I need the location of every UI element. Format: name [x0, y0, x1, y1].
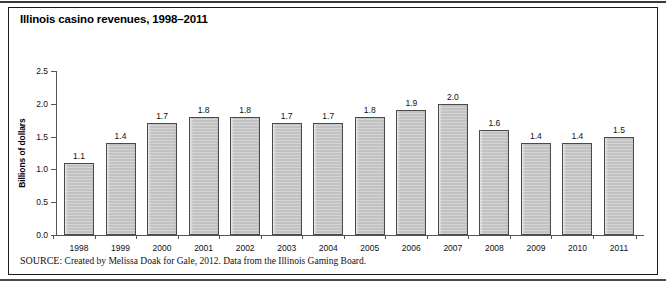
x-tick-label: 2004 [307, 243, 349, 253]
figure-container: Illinois casino revenues, 1998–2011 Bill… [0, 0, 666, 284]
bar-value-label: 1.7 [307, 111, 349, 121]
bar-slot: 1.4 [556, 71, 598, 235]
bar-value-label: 1.4 [515, 131, 557, 141]
y-tick-label: 2.0 [36, 99, 48, 109]
bar-value-label: 1.5 [598, 125, 640, 135]
x-tick-label: 2000 [141, 243, 183, 253]
bar[interactable] [189, 117, 219, 235]
x-tick-mark [636, 235, 637, 239]
bar[interactable] [230, 117, 260, 235]
bar-value-label: 1.6 [473, 118, 515, 128]
x-tick-label: 2001 [183, 243, 225, 253]
bar[interactable] [313, 123, 343, 235]
x-tick-mark [344, 235, 345, 239]
bar-value-label: 1.1 [58, 151, 100, 161]
source-text: Created by Melissa Doak for Gale, 2012. … [65, 256, 367, 266]
x-tick-mark [136, 235, 137, 239]
bar[interactable] [438, 104, 468, 235]
x-tick-mark [510, 235, 511, 239]
bar[interactable] [396, 110, 426, 235]
bar-value-label: 1.9 [390, 98, 432, 108]
bar-value-label: 2.0 [432, 92, 474, 102]
x-tick-label: 2003 [266, 243, 308, 253]
x-tick-label: 1999 [100, 243, 142, 253]
y-tick-label: 0.5 [36, 197, 48, 207]
x-tick-mark [593, 235, 594, 239]
bar-value-label: 1.8 [224, 105, 266, 115]
bar[interactable] [355, 117, 385, 235]
bar-slot: 1.8 [349, 71, 391, 235]
x-tick-label: 2008 [473, 243, 515, 253]
bar-slot: 1.1 [58, 71, 100, 235]
bar[interactable] [604, 137, 634, 235]
bar-value-label: 1.8 [183, 105, 225, 115]
bar-slot: 2.0 [432, 71, 474, 235]
bar-slot: 1.4 [515, 71, 557, 235]
bar-slot: 1.6 [473, 71, 515, 235]
chart-title: Illinois casino revenues, 1998–2011 [20, 13, 208, 25]
x-tick-mark [302, 235, 303, 239]
bar-value-label: 1.4 [556, 131, 598, 141]
x-tick-label: 2002 [224, 243, 266, 253]
bar-slot: 1.8 [224, 71, 266, 235]
bar-slot: 1.7 [266, 71, 308, 235]
y-axis-line [56, 71, 57, 235]
bar-slot: 1.7 [307, 71, 349, 235]
bar-slot: 1.4 [100, 71, 142, 235]
page-rule-top [0, 1, 666, 3]
bar-value-label: 1.7 [141, 111, 183, 121]
x-tick-mark [551, 235, 552, 239]
x-axis-line [56, 235, 644, 236]
y-tick-mark [51, 137, 56, 138]
y-tick-mark [51, 104, 56, 105]
x-tick-mark [53, 235, 54, 239]
x-tick-label: 2006 [390, 243, 432, 253]
x-tick-mark [468, 235, 469, 239]
bar-slot: 1.7 [141, 71, 183, 235]
x-tick-label: 2010 [556, 243, 598, 253]
bar[interactable] [106, 143, 136, 235]
x-tick-label: 2009 [515, 243, 557, 253]
y-tick-mark [51, 71, 56, 72]
bar-value-label: 1.7 [266, 111, 308, 121]
bar[interactable] [521, 143, 551, 235]
y-tick-label: 1.5 [36, 132, 48, 142]
y-axis-label: Billions of dollars [16, 71, 28, 235]
x-tick-mark [95, 235, 96, 239]
source-label: SOURCE: [20, 255, 62, 266]
x-tick-label: 2011 [598, 243, 640, 253]
y-tick-mark [51, 169, 56, 170]
bar-value-label: 1.4 [100, 131, 142, 141]
plot-area: 0.00.51.01.52.02.5 1.119981.419991.72000… [56, 71, 644, 235]
y-tick-label: 0.0 [36, 230, 48, 240]
page-rule-bottom [0, 279, 666, 281]
bar-value-label: 1.8 [349, 105, 391, 115]
x-tick-mark [219, 235, 220, 239]
y-tick-label: 2.5 [36, 66, 48, 76]
x-tick-mark [261, 235, 262, 239]
bar[interactable] [147, 123, 177, 235]
x-tick-label: 1998 [58, 243, 100, 253]
bar-slot: 1.5 [598, 71, 640, 235]
bar[interactable] [272, 123, 302, 235]
x-tick-label: 2007 [432, 243, 474, 253]
y-tick-label: 1.0 [36, 164, 48, 174]
bar[interactable] [562, 143, 592, 235]
bar[interactable] [479, 130, 509, 235]
bar-slot: 1.9 [390, 71, 432, 235]
x-tick-label: 2005 [349, 243, 391, 253]
y-tick-mark [51, 202, 56, 203]
x-tick-mark [385, 235, 386, 239]
bar[interactable] [64, 163, 94, 235]
bar-slot: 1.8 [183, 71, 225, 235]
x-tick-mark [178, 235, 179, 239]
y-axis-label-text: Billions of dollars [17, 118, 27, 187]
x-tick-mark [427, 235, 428, 239]
source-note: SOURCE: Created by Melissa Doak for Gale… [20, 255, 366, 266]
